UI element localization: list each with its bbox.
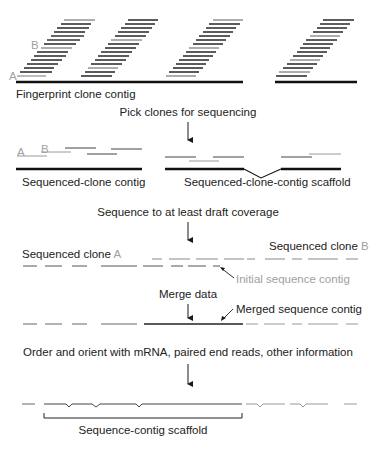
genome-assembly-diagram: A B Fingerprint clone contig Pick clones… (0, 0, 383, 449)
sequenced-clone-b-label: Sequenced clone B (269, 241, 369, 253)
sequenced-clone-b-letter: B (361, 240, 369, 252)
sequenced-clone-contig-scaffold (165, 154, 341, 178)
sequenced-clone-a-text: Sequenced clone (22, 248, 113, 260)
sequenced-clone-contig-caption: Sequenced-clone contig (22, 177, 145, 189)
step-pick-clones: Pick clones for sequencing (120, 107, 257, 119)
clone-stack-3 (166, 20, 243, 76)
step-merge-data: Merge data (159, 289, 217, 301)
step-order-and-orient: Order and orient with mRNA, paired end r… (23, 347, 353, 359)
diagram-graphics (0, 0, 383, 449)
merged-sequence-contig-label: Merged sequence contig (236, 304, 362, 316)
sequence-contig-scaffold-label: Sequence-contig scaffold (79, 425, 208, 437)
clone-a-label: A (9, 71, 17, 83)
sequenced-clone-b-text: Sequenced clone (269, 240, 361, 252)
clone-stack-1 (17, 20, 95, 76)
clone-stack-4 (276, 20, 354, 76)
sequenced-clone-contig (16, 148, 142, 169)
clone-stack-2 (81, 20, 158, 76)
stage2-clone-b-label: B (41, 144, 49, 156)
clone-b-label: B (31, 40, 39, 52)
sequenced-clone-contig-scaffold-caption: Sequenced-clone-contig scaffold (184, 177, 351, 189)
fingerprint-clone-contig-caption: Fingerprint clone contig (16, 89, 136, 101)
scaffold-bracket (44, 413, 242, 418)
sequenced-clone-a-label: Sequenced clone A (22, 249, 121, 261)
initial-sequence-contig-label: Initial sequence contig (236, 274, 350, 286)
sequenced-clone-a-letter: A (113, 248, 121, 260)
stage2-clone-a-label: A (17, 147, 25, 159)
step-sequence-draft-coverage: Sequence to at least draft coverage (97, 207, 279, 219)
scaffold-line (22, 404, 357, 407)
